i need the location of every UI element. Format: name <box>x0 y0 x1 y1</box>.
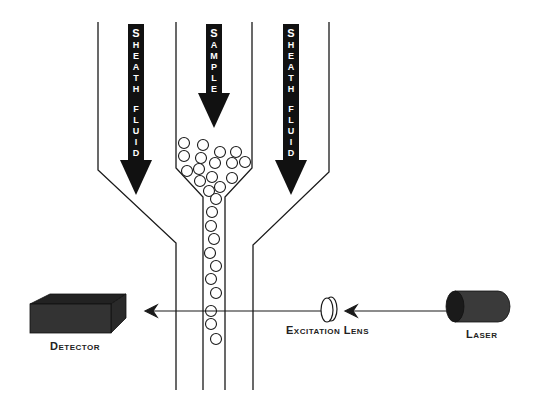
cell-particle <box>227 158 238 169</box>
sample-wall-right <box>225 22 252 390</box>
arrow-letter: L <box>288 115 294 126</box>
cell-particle <box>205 248 216 259</box>
arrow-letter: F <box>133 104 139 115</box>
arrow-letter: P <box>211 62 217 73</box>
cell-particle <box>206 319 217 330</box>
excitation-lens-icon <box>321 297 337 322</box>
sheath-fluid-right-label: SHEATHFLUID <box>283 26 299 159</box>
cell-particle <box>207 172 218 183</box>
sheath-fluid-left-label: SHEATHFLUID <box>128 26 144 159</box>
arrow-letter: U <box>133 126 140 137</box>
sample-wall-left <box>176 22 203 390</box>
arrow-letter: I <box>135 137 138 148</box>
excitation-lens-label: Excitation Lens <box>286 324 369 336</box>
detector-label: Detector <box>50 340 100 352</box>
arrow-letter: S <box>132 26 139 40</box>
cell-particle <box>240 157 251 168</box>
cell-particles <box>179 138 251 345</box>
arrow-letter: T <box>133 73 139 84</box>
cell-particle <box>196 153 207 164</box>
cell-particle <box>194 164 205 175</box>
detector-icon <box>30 294 126 333</box>
arrow-letter: T <box>288 73 294 84</box>
arrow-letter: A <box>211 40 218 51</box>
arrow-letter: F <box>288 104 294 115</box>
cell-particle <box>182 166 193 177</box>
cell-particle <box>215 147 226 158</box>
laser-label: Laser <box>466 328 497 340</box>
cell-particle <box>211 334 222 345</box>
laser-icon <box>446 291 510 322</box>
cell-particle <box>198 140 209 151</box>
cell-particle <box>211 261 222 272</box>
sample-label: SAMPLE <box>206 26 222 95</box>
arrow-letter: D <box>133 148 140 159</box>
arrow-letter: U <box>288 126 295 137</box>
arrow-letter: M <box>210 51 218 62</box>
cell-particle <box>206 221 217 232</box>
cell-particle <box>209 234 220 245</box>
cell-particle <box>195 176 206 187</box>
arrow-letter: S <box>287 26 294 40</box>
cell-particle <box>227 173 238 184</box>
arrow-letter: H <box>288 40 295 51</box>
arrow-letter: H <box>288 84 295 95</box>
arrow-letter: L <box>211 73 217 84</box>
arrow-letter: S <box>210 26 217 40</box>
cell-particle <box>179 151 190 162</box>
cell-particle <box>231 147 242 158</box>
arrow-letter: A <box>133 62 140 73</box>
cell-particle <box>211 288 222 299</box>
cell-particle <box>179 138 190 149</box>
arrow-letter: I <box>290 137 293 148</box>
cell-particle <box>206 274 217 285</box>
light-path <box>145 305 446 317</box>
arrow-letter: D <box>288 148 295 159</box>
cell-particle <box>207 207 218 218</box>
cell-particle <box>211 194 222 205</box>
cell-particle <box>210 158 221 169</box>
arrow-letter: L <box>133 115 139 126</box>
arrow-letter: A <box>288 62 295 73</box>
arrow-letter: E <box>288 51 294 62</box>
arrow-letter: H <box>133 40 140 51</box>
cell-particle <box>215 182 226 193</box>
arrow-letter: E <box>211 84 217 95</box>
arrow-letter: H <box>133 84 140 95</box>
arrow-letter: E <box>133 51 139 62</box>
